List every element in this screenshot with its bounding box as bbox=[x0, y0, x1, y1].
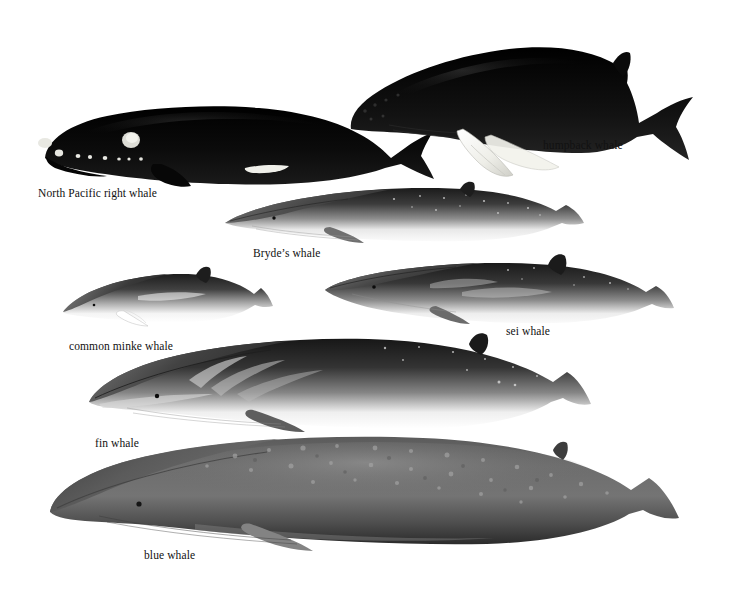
label-blue-whale: blue whale bbox=[144, 549, 195, 561]
figure-brydes-whale bbox=[222, 183, 587, 245]
blue-whale-eye bbox=[136, 501, 141, 506]
blue-whale-body bbox=[50, 437, 679, 551]
figure-fin-whale bbox=[85, 336, 630, 434]
fin-whale-eye bbox=[155, 394, 159, 398]
label-north-pacific-right-whale: North Pacific right whale bbox=[38, 187, 157, 199]
figure-humpback-whale bbox=[345, 33, 695, 178]
brydes-body bbox=[225, 188, 584, 243]
minke-eye bbox=[93, 304, 96, 307]
whale-species-plate: North Pacific right whale bbox=[0, 0, 731, 598]
figure-common-minke-whale bbox=[60, 268, 275, 326]
label-brydes-whale: Bryde’s whale bbox=[253, 247, 320, 259]
minke-body bbox=[63, 274, 273, 326]
brydes-eye bbox=[272, 216, 275, 219]
humpback-body bbox=[351, 47, 693, 160]
sei-eye bbox=[372, 285, 376, 289]
figure-blue-whale bbox=[45, 436, 715, 551]
figure-sei-whale bbox=[322, 258, 677, 326]
sei-body bbox=[325, 263, 674, 324]
label-humpback-whale: humpback whale bbox=[543, 139, 623, 151]
fin-whale-body bbox=[89, 339, 591, 432]
